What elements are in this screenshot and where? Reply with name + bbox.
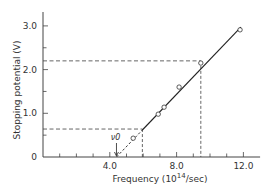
data-point-open-circle <box>177 85 181 89</box>
nu0-label: ν0 <box>111 133 121 142</box>
extrapolated-fit <box>116 130 142 157</box>
x-axis-title-suffix: /sec) <box>186 174 208 184</box>
x-tick-label: 4.0 <box>103 161 118 171</box>
tick-labels: 4.08.012.001.02.03.0 <box>23 21 254 171</box>
data-point-open-circle <box>238 28 242 32</box>
y-axis-title: Stopping potential (V) <box>12 40 22 139</box>
photoelectric-chart: 4.08.012.001.02.03.0 ν0 Stopping potenti… <box>0 0 271 188</box>
x-axis-title-prefix: Frequency (10 <box>113 174 178 184</box>
x-tick-label: 8.0 <box>169 161 184 171</box>
data-point-open-circle <box>156 112 160 116</box>
chart-svg: 4.08.012.001.02.03.0 ν0 Stopping potenti… <box>0 0 271 188</box>
axes <box>43 12 260 157</box>
guide-lines <box>43 61 201 157</box>
x-tick-label: 12.0 <box>233 161 253 171</box>
x-axis-title: Frequency (1014/sec) <box>113 172 208 184</box>
data-point-open-circle <box>131 136 135 140</box>
y-tick-label: 3.0 <box>23 21 38 31</box>
y-tick-label: 0 <box>31 152 37 162</box>
y-tick-label: 1.0 <box>23 108 38 118</box>
y-tick-label: 2.0 <box>23 65 38 75</box>
data-point-open-circle <box>199 61 203 65</box>
annotations: ν0 <box>111 133 121 156</box>
data-point-open-circle <box>162 105 166 109</box>
